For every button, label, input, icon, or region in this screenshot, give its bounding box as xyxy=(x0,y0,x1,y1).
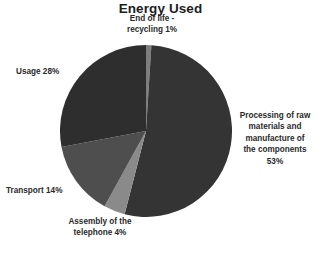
slice-label-usage: Usage 28% xyxy=(16,66,108,77)
pie-slice xyxy=(60,45,146,147)
slice-label-transport: Transport 14% xyxy=(6,185,98,196)
slice-label-line: recycling 1% xyxy=(96,24,208,35)
slice-label-line: telephone 4% xyxy=(48,227,152,238)
pie-chart-figure: Energy Used End of life - recycling 1% P… xyxy=(0,0,321,256)
slice-label-line: manufacture of xyxy=(231,133,319,144)
slice-label-line: Transport 14% xyxy=(6,185,98,196)
slice-label-line: Usage 28% xyxy=(16,66,108,77)
slice-label-processing-raw-materials: Processing of raw materials and manufact… xyxy=(231,110,319,167)
slice-label-end-of-life-recycling: End of life - recycling 1% xyxy=(96,13,208,36)
slice-label-line: materials and xyxy=(231,121,319,132)
chart-title: Energy Used xyxy=(0,2,321,16)
slice-label-line: 53% xyxy=(231,156,319,167)
slice-label-assembly-telephone: Assembly of the telephone 4% xyxy=(48,216,152,239)
slice-label-line: Assembly of the xyxy=(48,216,152,227)
slice-label-line: Processing of raw xyxy=(231,110,319,121)
slice-label-line: the components xyxy=(231,144,319,155)
